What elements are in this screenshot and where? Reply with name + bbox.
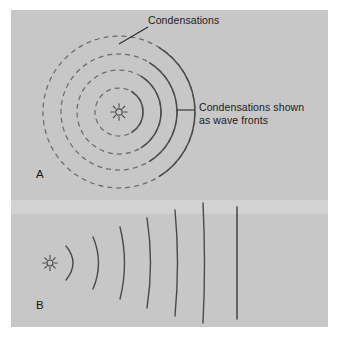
panel-a-condensation-rings bbox=[43, 36, 195, 188]
condensation-ring bbox=[43, 36, 195, 188]
panel-a-wave-fronts bbox=[132, 48, 195, 177]
label-condensations: Condensations bbox=[148, 14, 219, 27]
wave-front-arc bbox=[203, 203, 205, 323]
wave-front-arc bbox=[66, 246, 73, 280]
label-wavefronts: Condensations shownas wave fronts bbox=[199, 101, 304, 126]
wave-front-arc bbox=[93, 237, 99, 289]
label-wavefronts-line2: as wave fronts bbox=[199, 114, 268, 126]
source-ray bbox=[45, 266, 47, 268]
source-ray bbox=[53, 266, 55, 268]
panel-b-wave-fronts bbox=[66, 203, 205, 323]
wave-front-arc bbox=[147, 218, 151, 308]
panel-a-group bbox=[43, 27, 195, 188]
diagram-artwork bbox=[0, 0, 339, 339]
wave-front-arc bbox=[141, 76, 161, 147]
wave-front-arc bbox=[150, 63, 177, 161]
figure-root: Condensations Condensations shownas wave… bbox=[0, 0, 339, 339]
panel-b-group bbox=[43, 203, 237, 323]
wave-front-arc bbox=[132, 92, 143, 133]
source-ray bbox=[122, 115, 124, 117]
label-wavefronts-line1: Condensations shown bbox=[199, 101, 304, 113]
source-ray bbox=[53, 258, 55, 260]
panel-a-letter: A bbox=[36, 168, 44, 180]
panel-b-point-source bbox=[43, 256, 58, 271]
wave-front-arc bbox=[120, 227, 125, 299]
source-ray bbox=[45, 258, 47, 260]
source-core bbox=[47, 260, 53, 266]
panel-a-point-source bbox=[111, 104, 127, 120]
source-ray bbox=[113, 115, 115, 117]
panel-b-letter: B bbox=[36, 299, 44, 311]
source-core bbox=[116, 109, 122, 115]
source-ray bbox=[113, 106, 115, 108]
source-ray bbox=[122, 106, 124, 108]
wave-front-arc bbox=[175, 210, 178, 316]
